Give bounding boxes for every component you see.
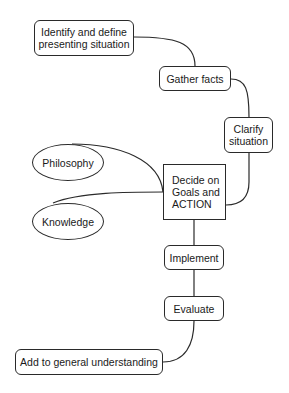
node-decide-line3: ACTION [172, 198, 220, 210]
edge-gather-clarify [231, 79, 249, 117]
node-identify: Identify and define presenting situation [34, 20, 134, 56]
node-gather: Gather facts [159, 66, 231, 91]
node-knowledge: Knowledge [32, 203, 104, 240]
edge-evaluate-add [163, 321, 194, 362]
connector-lines [0, 0, 289, 393]
node-add-label: Add to general understanding [20, 356, 158, 368]
node-clarify: Clarify situation [224, 117, 273, 153]
node-implement: Implement [164, 245, 224, 270]
node-add: Add to general understanding [15, 349, 163, 375]
edge-identify-gather [134, 37, 195, 66]
node-philosophy-label: Philosophy [42, 157, 93, 169]
node-knowledge-label: Knowledge [42, 216, 94, 228]
node-identify-line2: presenting situation [38, 38, 129, 50]
node-clarify-line1: Clarify [229, 123, 268, 135]
node-decide-line2: Goals and [172, 186, 220, 198]
node-clarify-line2: situation [229, 135, 268, 147]
node-evaluate-label: Evaluate [174, 303, 215, 315]
node-decide: Decide on Goals and ACTION [163, 164, 226, 220]
edge-clarify-decide [226, 153, 249, 205]
node-philosophy: Philosophy [32, 144, 104, 181]
node-implement-label: Implement [169, 252, 218, 264]
node-decide-line1: Decide on [172, 174, 220, 186]
node-gather-label: Gather facts [166, 73, 223, 85]
node-evaluate: Evaluate [164, 296, 224, 321]
node-identify-line1: Identify and define [38, 26, 129, 38]
edge-knowledge-decide [53, 192, 163, 203]
